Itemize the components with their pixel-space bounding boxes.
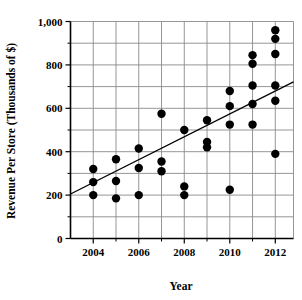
data-point bbox=[135, 191, 143, 199]
y-tick-label: 400 bbox=[46, 146, 63, 158]
regression-line bbox=[71, 82, 294, 194]
y-tick-label: 800 bbox=[46, 59, 63, 71]
y-tick-label: 1,000 bbox=[38, 16, 63, 28]
data-point bbox=[226, 102, 234, 110]
data-point bbox=[180, 182, 188, 190]
scatter-chart-figure: 20042006200820102012 02004006008001,000 … bbox=[0, 0, 302, 300]
data-point bbox=[157, 157, 165, 165]
y-tick-labels: 02004006008001,000 bbox=[38, 16, 63, 245]
data-point bbox=[180, 191, 188, 199]
data-point bbox=[203, 116, 211, 124]
x-tick-label: 2008 bbox=[173, 246, 196, 258]
trend-line bbox=[71, 82, 294, 194]
data-point bbox=[157, 167, 165, 175]
data-point bbox=[248, 81, 256, 89]
data-point bbox=[135, 144, 143, 152]
x-tick-label: 2010 bbox=[219, 246, 242, 258]
data-point bbox=[226, 185, 234, 193]
data-point bbox=[135, 164, 143, 172]
y-axis-title: Revenue Per Store (Thousands of $) bbox=[5, 43, 18, 219]
y-tick-label: 0 bbox=[57, 233, 63, 245]
data-point bbox=[271, 97, 279, 105]
data-point bbox=[89, 178, 97, 186]
data-point bbox=[248, 60, 256, 68]
x-tick-label: 2012 bbox=[264, 246, 287, 258]
y-tick-label: 200 bbox=[46, 189, 63, 201]
data-point bbox=[157, 110, 165, 118]
data-point bbox=[248, 120, 256, 128]
data-point bbox=[271, 26, 279, 34]
data-point bbox=[271, 50, 279, 58]
data-point bbox=[226, 87, 234, 95]
data-point bbox=[271, 35, 279, 43]
chart-canvas: 20042006200820102012 02004006008001,000 … bbox=[0, 0, 302, 300]
x-tick-labels: 20042006200820102012 bbox=[82, 246, 287, 258]
data-point bbox=[112, 194, 120, 202]
data-point bbox=[112, 177, 120, 185]
data-point bbox=[112, 155, 120, 163]
data-point bbox=[248, 100, 256, 108]
x-tick-label: 2006 bbox=[128, 246, 151, 258]
axis-ticks bbox=[66, 22, 276, 244]
x-tick-label: 2004 bbox=[82, 246, 105, 258]
data-point bbox=[89, 191, 97, 199]
x-axis-title: Year bbox=[170, 280, 193, 292]
y-tick-label: 600 bbox=[46, 102, 63, 114]
data-point bbox=[271, 81, 279, 89]
data-point bbox=[271, 150, 279, 158]
data-point bbox=[180, 126, 188, 134]
data-point bbox=[226, 120, 234, 128]
data-point bbox=[248, 51, 256, 59]
data-point bbox=[203, 143, 211, 151]
data-point bbox=[89, 165, 97, 173]
